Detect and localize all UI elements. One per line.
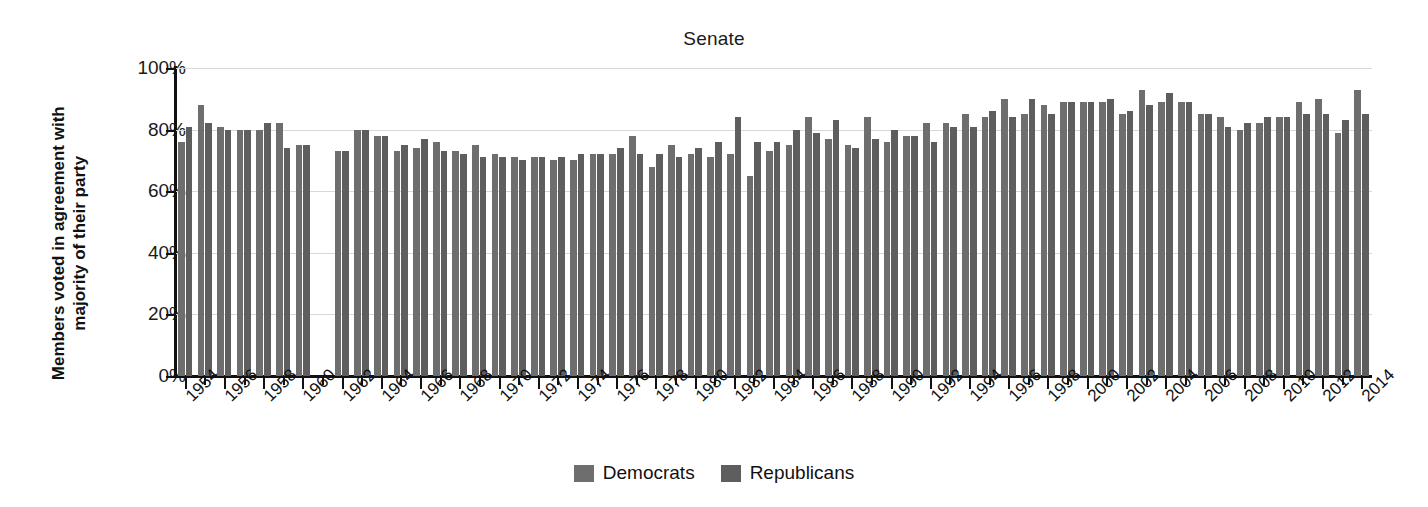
bar-republicans-1969	[480, 157, 487, 376]
x-tick-mark-minor	[753, 378, 755, 385]
bar-republicans-2014	[1362, 114, 1369, 376]
bar-republicans-1978	[656, 154, 663, 376]
bar-republicans-1957	[244, 130, 251, 376]
bar-republicans-1991	[911, 136, 918, 376]
bar-republicans-1979	[676, 157, 683, 376]
bar-republicans-1989	[872, 139, 879, 376]
bar-democrats-1973	[550, 160, 557, 376]
bar-democrats-1976	[609, 154, 616, 376]
bar-democrats-1959	[276, 123, 283, 376]
x-tick-mark-minor	[871, 378, 873, 385]
bar-republicans-1971	[519, 160, 526, 376]
bar-republicans-1986	[813, 133, 820, 376]
bar-democrats-1985	[786, 145, 793, 376]
bar-republicans-1984	[774, 142, 781, 376]
bar-democrats-1994	[962, 114, 969, 376]
bar-republicans-1999	[1068, 102, 1075, 376]
x-tick-mark-minor	[322, 378, 324, 385]
x-tick-mark-minor	[1067, 378, 1069, 385]
bar-democrats-1974	[570, 160, 577, 376]
bar-democrats-1989	[864, 117, 871, 376]
bar-republicans-2000	[1088, 102, 1095, 376]
bar-republicans-1974	[578, 154, 585, 376]
bar-democrats-1966	[413, 148, 420, 376]
bar-republicans-2003	[1146, 105, 1153, 376]
bar-democrats-2014	[1354, 90, 1361, 376]
bar-republicans-1982	[735, 117, 742, 376]
bar-democrats-2007	[1217, 117, 1224, 376]
bar-republicans-2012	[1323, 114, 1330, 376]
bar-republicans-1990	[891, 130, 898, 376]
bar-republicans-1958	[264, 123, 271, 376]
bar-democrats-1980	[688, 154, 695, 376]
x-tick-mark-minor	[283, 378, 285, 385]
x-tick-mark-minor	[518, 378, 520, 385]
bar-republicans-2007	[1225, 127, 1232, 376]
bar-republicans-1976	[617, 148, 624, 376]
bar-democrats-1960	[296, 145, 303, 376]
bar-democrats-1965	[394, 151, 401, 376]
x-tick-mark-minor	[597, 378, 599, 385]
bar-republicans-2001	[1107, 99, 1114, 376]
bar-democrats-1991	[903, 136, 910, 376]
bar-republicans-1985	[793, 130, 800, 376]
bar-republicans-2013	[1342, 120, 1349, 376]
senate-party-unity-chart: Senate Members voted in agreement with m…	[0, 0, 1428, 507]
legend-swatch-democrats	[574, 465, 594, 482]
x-tick-mark-minor	[793, 378, 795, 385]
x-tick-mark-minor	[1106, 378, 1108, 385]
bar-republicans-1968	[460, 154, 467, 376]
bar-democrats-1996	[1001, 99, 1008, 376]
bar-democrats-1999	[1060, 102, 1067, 376]
bar-republicans-1955	[205, 123, 212, 376]
x-tick-mark-minor	[675, 378, 677, 385]
bar-democrats-1986	[805, 117, 812, 376]
bar-democrats-2012	[1315, 99, 1322, 376]
x-tick-mark-minor	[479, 378, 481, 385]
x-tick-mark-minor	[1185, 378, 1187, 385]
bar-democrats-2001	[1099, 102, 1106, 376]
bar-republicans-1983	[754, 142, 761, 376]
bar-democrats-1977	[629, 136, 636, 376]
bar-democrats-1987	[825, 139, 832, 376]
legend-label-republicans: Republicans	[750, 462, 855, 484]
bar-democrats-1957	[237, 130, 244, 376]
bar-democrats-1997	[1021, 114, 1028, 376]
bar-republicans-1977	[637, 154, 644, 376]
x-tick-mark-minor	[832, 378, 834, 385]
bar-republicans-1996	[1009, 117, 1016, 376]
bar-democrats-2002	[1119, 114, 1126, 376]
bar-democrats-1962	[335, 151, 342, 376]
bar-democrats-1995	[982, 117, 989, 376]
bar-democrats-1978	[649, 167, 656, 376]
x-tick-mark-minor	[1028, 378, 1030, 385]
bar-republicans-2002	[1127, 111, 1134, 376]
bar-democrats-1964	[374, 136, 381, 376]
bar-democrats-2009	[1256, 123, 1263, 376]
bar-republicans-1959	[284, 148, 291, 376]
bar-republicans-2011	[1303, 114, 1310, 376]
bar-republicans-1962	[342, 151, 349, 376]
bar-republicans-1972	[539, 157, 546, 376]
bar-democrats-1979	[668, 145, 675, 376]
x-tick-mark-minor	[1263, 378, 1265, 385]
x-tick-mark-minor	[557, 378, 559, 385]
bar-republicans-1998	[1048, 114, 1055, 376]
x-tick-mark-minor	[1342, 378, 1344, 385]
legend-label-democrats: Democrats	[603, 462, 695, 484]
bar-democrats-1963	[354, 130, 361, 376]
bar-republicans-1987	[833, 120, 840, 376]
bar-republicans-1997	[1029, 99, 1036, 376]
bar-democrats-1982	[727, 154, 734, 376]
bar-democrats-1988	[845, 145, 852, 376]
bar-democrats-2010	[1276, 117, 1283, 376]
bar-republicans-1980	[695, 148, 702, 376]
bar-republicans-1963	[362, 130, 369, 376]
bar-republicans-1966	[421, 139, 428, 376]
x-tick-mark-minor	[1224, 378, 1226, 385]
legend-item-democrats[interactable]: Democrats	[574, 462, 695, 484]
bar-democrats-1971	[511, 157, 518, 376]
legend-item-republicans[interactable]: Republicans	[721, 462, 855, 484]
bar-republicans-1954	[186, 127, 193, 376]
chart-legend: Democrats Republicans	[0, 462, 1428, 484]
